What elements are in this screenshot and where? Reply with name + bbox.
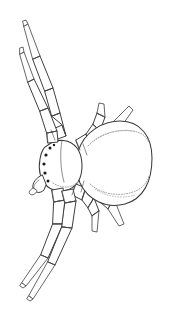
spider-illustration bbox=[0, 0, 175, 322]
eye-5 bbox=[47, 180, 50, 183]
eye-4 bbox=[43, 171, 46, 174]
eye-1 bbox=[49, 147, 52, 150]
eye-3 bbox=[42, 162, 45, 165]
illustration-canvas: Line drawing of a spider seen from above… bbox=[0, 0, 175, 322]
eye-6 bbox=[53, 144, 55, 146]
eye-2 bbox=[44, 153, 47, 156]
